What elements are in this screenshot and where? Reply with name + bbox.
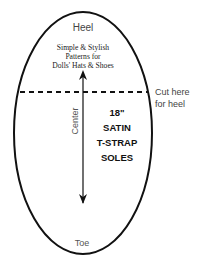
title-material: SATIN	[103, 122, 131, 133]
for-heel-label: for heel	[155, 99, 185, 109]
title-item: SOLES	[101, 152, 133, 163]
cut-here-label: Cut here	[155, 87, 190, 97]
publisher-line-2: Patterns for	[65, 52, 101, 61]
title-style: T-STRAP	[97, 137, 138, 148]
heel-label: Heel	[73, 22, 94, 33]
title-size: 18"	[109, 107, 124, 118]
sole-pattern-diagram: Heel Simple & Stylish Patterns for Dolls…	[0, 0, 208, 270]
publisher-line-3: Dolls' Hats & Shoes	[52, 61, 114, 70]
center-label: Center	[70, 107, 80, 134]
publisher-line-1: Simple & Stylish	[57, 43, 110, 52]
toe-label: Toe	[75, 238, 90, 248]
